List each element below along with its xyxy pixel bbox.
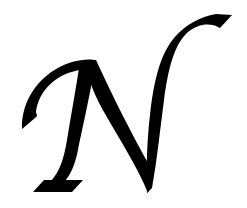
right-stem-stroke xyxy=(147,14,232,193)
calligraphic-n-glyph xyxy=(0,0,247,208)
letter-canvas: N xyxy=(0,0,247,208)
foot-serif xyxy=(33,180,83,192)
diagonal-stroke xyxy=(84,60,152,193)
